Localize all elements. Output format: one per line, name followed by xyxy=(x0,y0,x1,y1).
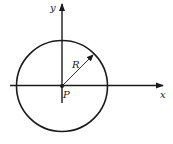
y-axis-label: y xyxy=(49,2,56,13)
x-axis-label: x xyxy=(160,89,166,100)
center-label: P xyxy=(62,89,70,100)
diagram-canvas: y x R P xyxy=(0,0,173,144)
center-point xyxy=(60,84,64,88)
radius-label: R xyxy=(71,59,80,70)
